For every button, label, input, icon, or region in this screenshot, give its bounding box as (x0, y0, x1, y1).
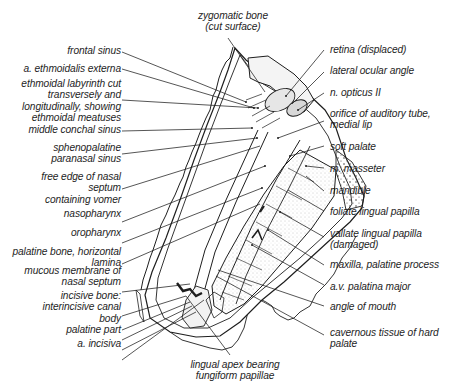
label-line: interincisive canal (42, 301, 121, 312)
label-line: ethmoidal labyrinth cut (21, 78, 121, 89)
label-line: (damaged) (330, 239, 422, 250)
label-line: longitudinally, showing (21, 101, 121, 112)
label-zygomatic-bone: zygomatic bone (cut surface) (178, 10, 288, 33)
label-line: incisive bone: (42, 290, 121, 301)
label-vallate-lingual-papilla: vallate lingual papilla (damaged) (330, 228, 422, 251)
label-incisive-bone: incisive bone: interincisive canal body … (42, 290, 121, 335)
label-line: (cut surface) (178, 21, 288, 32)
label-lingual-apex: lingual apex bearing fungiform papillae (170, 359, 300, 382)
label-line: fungiform papillae (170, 370, 300, 381)
label-angle-of-mouth: angle of mouth (330, 301, 396, 312)
label-n-opticus-ii: n. opticus II (330, 87, 381, 98)
label-a-ethmoidalis-externa: a. ethmoidalis externa (24, 63, 121, 74)
label-line: sphenopalatine (51, 142, 121, 153)
label-ethmoidal-labyrinth: ethmoidal labyrinth cut transversely and… (21, 78, 121, 123)
label-line: free edge of nasal (41, 171, 121, 182)
label-line: middle conchal sinus (28, 124, 121, 135)
label-line: foliate lingual papilla (330, 206, 419, 217)
label-foliate-lingual-papilla: foliate lingual papilla (330, 206, 419, 217)
anatomical-diagram: zygomatic bone (cut surface) frontal sin… (0, 0, 461, 392)
label-cavernous-tissue-hard-palate: cavernous tissue of hard palate (330, 327, 439, 350)
label-line: soft palate (330, 141, 376, 152)
label-mandible: mandible (330, 185, 371, 196)
label-line: retina (displaced) (330, 44, 406, 55)
label-mucous-membrane-nasal-septum: mucous membrane of nasal septum (24, 265, 121, 288)
label-line: medial lip (330, 119, 431, 130)
label-oropharynx: oropharynx (71, 227, 121, 238)
label-line: frontal sinus (67, 45, 121, 56)
label-nasopharynx: nasopharynx (64, 208, 121, 219)
label-line: maxilla, palatine process (330, 259, 439, 270)
label-av-palatina-major: a.v. palatina major (330, 281, 411, 292)
label-line: oropharynx (71, 227, 121, 238)
label-line: transversely and (21, 89, 121, 100)
label-line: cavernous tissue of hard (330, 327, 439, 338)
label-line: nasopharynx (64, 208, 121, 219)
label-frontal-sinus: frontal sinus (67, 45, 121, 56)
label-line: n. opticus II (330, 87, 381, 98)
label-a-incisiva: a. incisiva (77, 338, 121, 349)
label-soft-palate: soft palate (330, 141, 376, 152)
label-line: zygomatic bone (178, 10, 288, 21)
label-line: lingual apex bearing (170, 359, 300, 370)
label-retina-displaced: retina (displaced) (330, 44, 406, 55)
label-line: lateral ocular angle (330, 65, 414, 76)
label-line: a.v. palatina major (330, 281, 411, 292)
label-line: angle of mouth (330, 301, 396, 312)
label-line: containing vomer (41, 194, 121, 205)
label-line: a. ethmoidalis externa (24, 63, 121, 74)
label-line: ethmoidal meatuses (21, 112, 121, 123)
label-maxilla-palatine-process: maxilla, palatine process (330, 259, 439, 270)
label-line: palatine part (42, 324, 121, 335)
label-line: paranasal sinus (51, 153, 121, 164)
label-line: palatine bone, horizontal (12, 246, 121, 257)
label-line: a. incisiva (77, 338, 121, 349)
label-lateral-ocular-angle: lateral ocular angle (330, 65, 414, 76)
label-sphenopalatine-paranasal-sinus: sphenopalatine paranasal sinus (51, 142, 121, 165)
label-line: vallate lingual papilla (330, 228, 422, 239)
label-line: orifice of auditory tube, (330, 108, 431, 119)
label-line: m. masseter (330, 163, 385, 174)
label-line: palate (330, 338, 439, 349)
label-line: body (42, 313, 121, 324)
label-m-masseter: m. masseter (330, 163, 385, 174)
label-free-edge-nasal-septum: free edge of nasal septum containing vom… (41, 171, 121, 205)
label-middle-conchal-sinus: middle conchal sinus (28, 124, 121, 135)
label-line: mucous membrane of (24, 265, 121, 276)
label-line: mandible (330, 185, 371, 196)
label-line: septum (41, 182, 121, 193)
label-orifice-auditory-tube: orifice of auditory tube, medial lip (330, 108, 431, 131)
label-line: nasal septum (24, 276, 121, 287)
